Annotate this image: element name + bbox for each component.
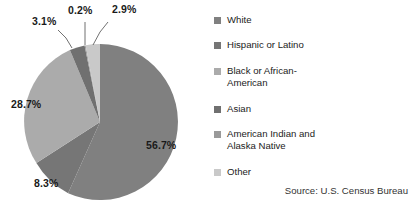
slice-label-asian: 3.1% [32,15,56,27]
legend-swatch-black-or-african-american [214,68,221,75]
legend-label-hispanic-or-latino: Hispanic or Latino [227,39,304,51]
slice-label-american-indian-and-alaska-native: 0.2% [68,4,92,16]
legend-item-white[interactable]: White [214,14,410,26]
legend-swatch-white [214,17,221,24]
legend-item-black-or-african-american[interactable]: Black or African-American [214,65,410,90]
slice-label-other: 2.9% [112,3,136,15]
pie-graphic [0,0,212,224]
legend-label-black-or-african-american: Black or African-American [227,65,335,90]
leader-line-asian [58,30,72,48]
legend-label-asian: Asian [227,103,251,115]
legend-label-american-indian-and-alaska-native: American Indian and Alaska Native [227,128,335,153]
legend-swatch-asian [214,106,221,113]
leader-line-other [93,22,108,45]
source-note: Source: U.S. Census Bureau [285,185,408,196]
legend-item-hispanic-or-latino[interactable]: Hispanic or Latino [214,39,410,51]
legend-swatch-other [214,169,221,176]
pie-plot-area: 56.7% 8.3% 28.7% 3.1% 0.2% 2.9% [0,0,212,224]
slice-label-black-or-african-american: 28.7% [11,98,41,110]
legend-swatch-hispanic-or-latino [214,42,221,49]
legend-item-american-indian-and-alaska-native[interactable]: American Indian and Alaska Native [214,128,410,153]
pie-chart: 56.7% 8.3% 28.7% 3.1% 0.2% 2.9% White Hi… [0,0,410,224]
legend-label-white: White [227,14,252,26]
legend: White Hispanic or Latino Black or Africa… [214,14,410,191]
legend-swatch-american-indian-and-alaska-native [214,131,221,138]
legend-item-asian[interactable]: Asian [214,103,410,115]
legend-label-other: Other [227,166,251,178]
slice-label-hispanic-or-latino: 8.3% [34,177,58,189]
legend-item-other[interactable]: Other [214,166,410,178]
slice-label-white: 56.7% [146,139,176,151]
